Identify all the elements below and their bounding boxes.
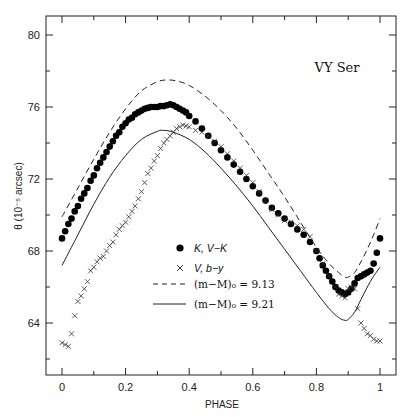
data-point-circle: [230, 161, 237, 168]
x-tick-label: 0.4: [182, 381, 197, 393]
x-tick-label: 1: [377, 381, 383, 393]
x-tick-label: 0.8: [309, 381, 324, 393]
data-point-circle: [68, 215, 75, 222]
data-point-circle: [243, 176, 250, 183]
legend-label-solid: (m−M)₀ = 9.21: [194, 298, 275, 310]
y-tick-label: 72: [28, 173, 40, 185]
y-tick-label: 68: [28, 245, 40, 257]
data-point-circle: [91, 172, 98, 179]
x-tick-label: 0.2: [118, 381, 133, 393]
data-point-circle: [192, 118, 199, 125]
x-tick-label: 0.6: [245, 381, 260, 393]
data-point-circle: [300, 232, 307, 239]
legend-label-v: V, b−y: [194, 262, 224, 274]
y-tick-label: 80: [28, 29, 40, 41]
data-point-circle: [224, 154, 231, 161]
data-point-circle: [84, 185, 91, 192]
y-tick-label: 76: [28, 101, 40, 113]
data-point-circle: [237, 169, 244, 176]
legend-label-k: K, V−K: [194, 242, 228, 254]
data-point-circle: [374, 250, 381, 257]
data-point-circle: [316, 255, 323, 262]
data-point-circle: [199, 125, 206, 132]
data-point-circle: [59, 235, 66, 242]
y-axis-title: θ (10⁻⁵ arcsec): [13, 162, 24, 230]
x-axis-title: PHASE: [205, 399, 239, 410]
data-point-circle: [62, 228, 69, 235]
y-tick-label: 64: [28, 317, 40, 329]
data-point-circle: [186, 113, 193, 120]
chart: 00.20.40.60.816468727680 VY Ser PHASE θ …: [0, 0, 411, 417]
x-tick-label: 0: [59, 381, 65, 393]
legend-label-dashed: (m−M)₀ = 9.13: [194, 278, 275, 290]
star-name-annotation: VY Ser: [314, 60, 361, 75]
data-point-circle: [377, 235, 384, 242]
data-point-circle: [294, 226, 301, 233]
legend-marker-filled-circle: [176, 244, 183, 251]
data-point-circle: [218, 147, 225, 154]
data-point-circle: [250, 183, 257, 190]
data-point-circle: [75, 203, 82, 210]
data-point-circle: [370, 260, 377, 267]
data-point-circle: [367, 268, 374, 275]
